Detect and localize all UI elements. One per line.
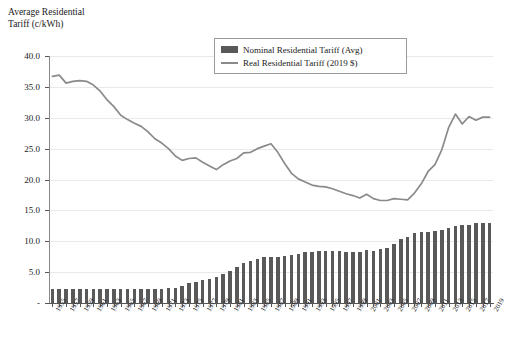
x-axis-tick xyxy=(339,303,340,307)
x-axis-tick xyxy=(230,303,231,307)
x-axis-tick xyxy=(394,303,395,307)
x-axis-tick xyxy=(285,303,286,307)
x-axis-tick xyxy=(148,303,149,307)
x-axis-tick xyxy=(203,303,204,307)
x-axis-tick xyxy=(490,303,491,307)
y-axis-tick xyxy=(45,56,49,57)
legend-label-real: Real Residential Tariff (2019 $) xyxy=(243,58,358,68)
x-axis-tick xyxy=(169,303,170,307)
y-axis-tick xyxy=(45,210,49,211)
x-axis-tick xyxy=(428,303,429,307)
legend-item-real: Real Residential Tariff (2019 $) xyxy=(221,56,400,69)
x-axis-tick xyxy=(264,303,265,307)
x-axis-tick xyxy=(449,303,450,307)
x-axis-tick xyxy=(100,303,101,307)
x-axis-tick xyxy=(435,303,436,307)
x-axis-tick xyxy=(278,303,279,307)
chart-legend: Nominal Residential Tariff (Avg) Real Re… xyxy=(214,38,407,74)
x-axis-tick xyxy=(175,303,176,307)
y-axis-line xyxy=(49,56,50,304)
x-axis-tick xyxy=(189,303,190,307)
x-axis-tick xyxy=(326,303,327,307)
x-axis-tick xyxy=(210,303,211,307)
x-axis-tick xyxy=(380,303,381,307)
y-axis-tick xyxy=(45,272,49,273)
x-axis-tick xyxy=(462,303,463,307)
x-axis-tick xyxy=(271,303,272,307)
x-axis-tick xyxy=(408,303,409,307)
x-axis-tick xyxy=(196,303,197,307)
legend-item-nominal: Nominal Residential Tariff (Avg) xyxy=(221,43,400,56)
x-axis-tick xyxy=(401,303,402,307)
x-axis-tick xyxy=(442,303,443,307)
x-axis-tick xyxy=(469,303,470,307)
x-axis-tick xyxy=(421,303,422,307)
y-axis-tick-label: 40.0 xyxy=(6,51,40,61)
y-axis-tick xyxy=(45,149,49,150)
y-axis-tick-label: 20.0 xyxy=(6,175,40,185)
x-axis-tick xyxy=(223,303,224,307)
x-axis-tick xyxy=(80,303,81,307)
x-axis-tick xyxy=(107,303,108,307)
x-axis-tick xyxy=(257,303,258,307)
x-axis-tick xyxy=(93,303,94,307)
x-axis-tick xyxy=(134,303,135,307)
real-tariff-line xyxy=(49,56,493,303)
y-axis-tick-label: 10.0 xyxy=(6,236,40,246)
x-axis-tick xyxy=(121,303,122,307)
x-axis-tick xyxy=(298,303,299,307)
x-axis-tick xyxy=(162,303,163,307)
legend-line-swatch-icon xyxy=(221,62,238,64)
chart-container: Average Residential Tariff (c/kWh) Nomin… xyxy=(0,0,509,345)
x-axis-tick xyxy=(455,303,456,307)
legend-label-nominal: Nominal Residential Tariff (Avg) xyxy=(243,45,363,55)
x-axis-tick xyxy=(305,303,306,307)
x-axis-tick xyxy=(141,303,142,307)
x-axis-tick xyxy=(332,303,333,307)
x-axis-tick xyxy=(414,303,415,307)
plot-area xyxy=(49,56,493,303)
x-axis-tick xyxy=(155,303,156,307)
x-axis-tick xyxy=(73,303,74,307)
y-axis-tick-label: 15.0 xyxy=(6,205,40,215)
x-axis-tick xyxy=(114,303,115,307)
x-axis-tick xyxy=(319,303,320,307)
x-axis-tick xyxy=(251,303,252,307)
x-axis-tick xyxy=(182,303,183,307)
x-axis-tick xyxy=(312,303,313,307)
x-axis-tick xyxy=(244,303,245,307)
x-axis-tick xyxy=(483,303,484,307)
x-axis-tick xyxy=(59,303,60,307)
x-axis-tick xyxy=(128,303,129,307)
x-axis-tick xyxy=(346,303,347,307)
x-axis-tick xyxy=(216,303,217,307)
x-axis-tick xyxy=(52,303,53,307)
x-axis-tick xyxy=(87,303,88,307)
y-axis-title: Average Residential Tariff (c/kWh) xyxy=(8,6,85,30)
y-axis-tick xyxy=(45,180,49,181)
x-axis-tick xyxy=(237,303,238,307)
y-axis-tick xyxy=(45,241,49,242)
y-axis-tick xyxy=(45,303,49,304)
y-axis-tick xyxy=(45,87,49,88)
y-axis-tick-label: 5.0 xyxy=(6,267,40,277)
x-axis-tick xyxy=(353,303,354,307)
y-axis-tick-label: 30.0 xyxy=(6,113,40,123)
y-axis-tick xyxy=(45,118,49,119)
y-axis-tick-label: 35.0 xyxy=(6,82,40,92)
x-axis-tick xyxy=(360,303,361,307)
x-axis-tick xyxy=(291,303,292,307)
legend-bar-swatch-icon xyxy=(221,46,238,53)
y-axis-tick-label: - xyxy=(6,298,40,308)
x-axis-tick-label: 2019 xyxy=(492,297,506,313)
x-axis-tick xyxy=(476,303,477,307)
x-axis-tick xyxy=(367,303,368,307)
x-axis-tick xyxy=(66,303,67,307)
x-axis-tick xyxy=(387,303,388,307)
x-axis-tick xyxy=(373,303,374,307)
y-axis-tick-label: 25.0 xyxy=(6,144,40,154)
